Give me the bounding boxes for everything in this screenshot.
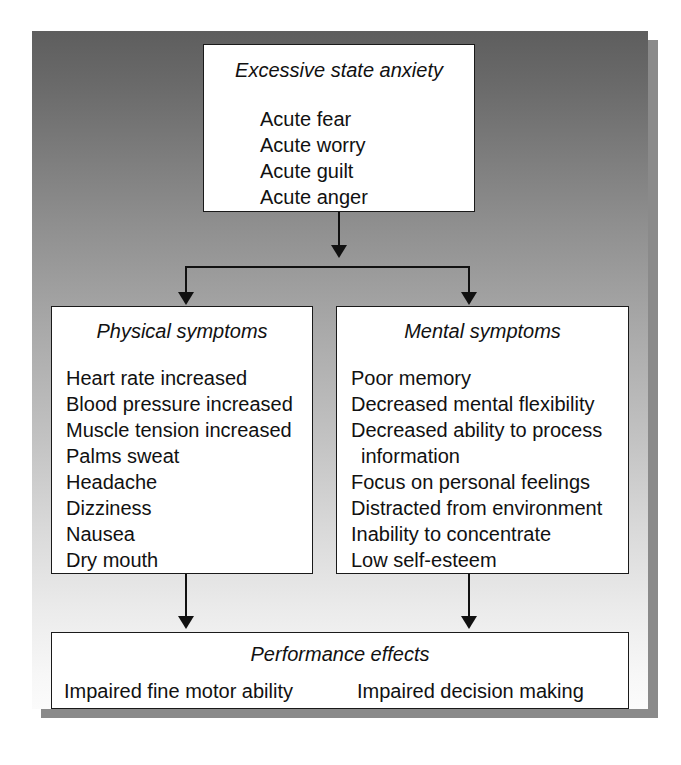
list-item: Acute anger <box>260 184 474 210</box>
list-item: Dizziness <box>66 495 312 521</box>
list-item: Decreased ability to process <box>351 417 628 443</box>
connector-to-physical <box>185 266 187 294</box>
list-item: Acute worry <box>260 132 474 158</box>
box-list-physical: Heart rate increased Blood pressure incr… <box>52 365 312 573</box>
list-item: Decreased mental flexibility <box>351 391 628 417</box>
box-title-mental: Mental symptoms <box>337 320 628 343</box>
arrow-down-icon <box>331 245 347 258</box>
list-item: Distracted from environment <box>351 495 628 521</box>
performance-effect-right: Impaired decision making <box>357 680 584 703</box>
list-item: Low self-esteem <box>351 547 628 573</box>
connector-anxiety-trunk <box>338 212 340 248</box>
list-item: Headache <box>66 469 312 495</box>
box-excessive-state-anxiety: Excessive state anxiety Acute fear Acute… <box>203 44 475 212</box>
list-item: Palms sweat <box>66 443 312 469</box>
connector-to-mental <box>468 266 470 294</box>
box-title-physical: Physical symptoms <box>52 320 312 343</box>
list-item: Nausea <box>66 521 312 547</box>
connector-split-bar <box>185 266 470 268</box>
list-item: Acute fear <box>260 106 474 132</box>
list-item: Inability to concentrate <box>351 521 628 547</box>
list-item: Dry mouth <box>66 547 312 573</box>
box-physical-symptoms: Physical symptoms Heart rate increased B… <box>51 306 313 574</box>
list-item: Acute guilt <box>260 158 474 184</box>
list-item: Focus on personal feelings <box>351 469 628 495</box>
box-title-performance: Performance effects <box>52 643 628 666</box>
arrow-down-icon <box>461 292 477 305</box>
connector-physical-to-performance <box>185 574 187 618</box>
box-mental-symptoms: Mental symptoms Poor memory Decreased me… <box>336 306 629 574</box>
arrow-down-icon <box>178 292 194 305</box>
box-list-anxiety: Acute fear Acute worry Acute guilt Acute… <box>204 106 474 210</box>
performance-effects-row: Impaired fine motor ability Impaired dec… <box>52 680 628 703</box>
list-item: Muscle tension increased <box>66 417 312 443</box>
diagram-page: Excessive state anxiety Acute fear Acute… <box>0 0 681 765</box>
arrow-down-icon <box>461 616 477 629</box>
box-list-mental: Poor memory Decreased mental flexibility… <box>337 365 628 573</box>
arrow-down-icon <box>178 616 194 629</box>
box-performance-effects: Performance effects Impaired fine motor … <box>51 632 629 709</box>
connector-mental-to-performance <box>468 574 470 618</box>
list-item: Blood pressure increased <box>66 391 312 417</box>
list-item: Heart rate increased <box>66 365 312 391</box>
list-item: Poor memory <box>351 365 628 391</box>
box-title-anxiety: Excessive state anxiety <box>204 59 474 82</box>
list-item: information <box>351 443 628 469</box>
performance-effect-left: Impaired fine motor ability <box>64 680 293 703</box>
